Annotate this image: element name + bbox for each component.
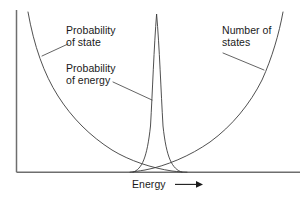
label-probability-of-state: Probability of state	[66, 24, 116, 49]
leader-line-probability-of-state	[42, 44, 68, 56]
energy-arrow-head	[196, 181, 203, 188]
label-number-of-states: Number of states	[222, 24, 271, 49]
leader-line-number-of-states	[223, 53, 264, 70]
label-probability-of-energy: Probability of energy	[66, 62, 116, 87]
x-axis-label: Energy	[132, 178, 166, 190]
leader-line-probability-of-energy	[113, 82, 152, 100]
energy-distribution-figure: Probability of state Probability of ener…	[0, 0, 307, 200]
curve-probability-of-energy	[133, 14, 182, 172]
